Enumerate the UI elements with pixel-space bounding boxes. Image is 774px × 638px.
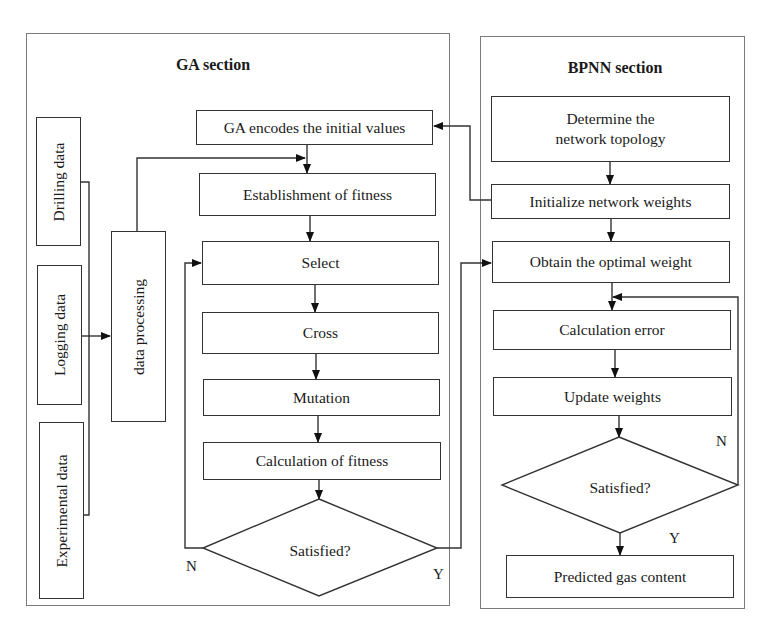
ga-encode-box: GA encodes the initial values [196, 110, 433, 145]
calc-error-box: Calculation error [493, 310, 731, 350]
calc-fitness-box: Calculation of fitness [203, 442, 441, 480]
establish-fitness-box: Establishment of fitness [199, 173, 436, 216]
update-weights-box: Update weights [493, 377, 732, 416]
drilling-data-label: Drilling data [50, 142, 68, 221]
logging-data-label: Logging data [51, 294, 69, 376]
experimental-data-box: Experimental data [39, 422, 84, 599]
data-processing-label: data processing [130, 279, 148, 375]
data-processing-box: data processing [111, 231, 166, 422]
cross-box: Cross [202, 312, 439, 354]
experimental-data-label: Experimental data [53, 454, 71, 567]
bpnn-yes-label: Y [669, 530, 680, 547]
predicted-gas-box: Predicted gas content [506, 555, 734, 598]
drilling-data-box: Drilling data [36, 117, 81, 246]
ga-yes-label: Y [433, 566, 444, 583]
bpnn-decision-label: Satisfied? [589, 479, 650, 497]
ga-decision-label: Satisfied? [289, 542, 350, 560]
init-weights-box: Initialize network weights [491, 184, 730, 219]
ga-no-label: N [186, 558, 197, 575]
flowchart-canvas: GA section BPNN section [0, 0, 774, 638]
optimal-weight-box: Obtain the optimal weight [492, 241, 730, 283]
topology-box: Determine the network topology [491, 96, 730, 162]
logging-data-box: Logging data [37, 265, 82, 405]
select-box: Select [202, 241, 439, 285]
mutation-box: Mutation [203, 379, 440, 416]
bpnn-no-label: N [716, 433, 727, 450]
